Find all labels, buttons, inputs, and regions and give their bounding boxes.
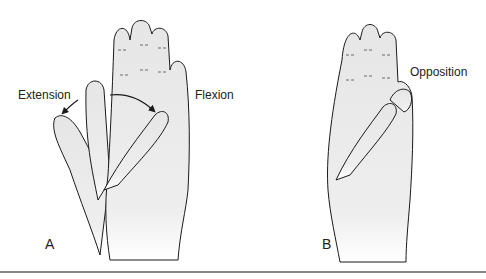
panel-label-b: B: [322, 236, 331, 252]
hand-diagram: [0, 0, 486, 279]
panel-label-a: A: [45, 236, 54, 252]
bottom-rule-divider: [0, 271, 486, 273]
hand-b: [328, 25, 413, 263]
label-flexion: Flexion: [195, 88, 234, 102]
label-extension: Extension: [18, 88, 71, 102]
hand-a: [54, 21, 190, 261]
label-opposition: Opposition: [410, 65, 467, 79]
